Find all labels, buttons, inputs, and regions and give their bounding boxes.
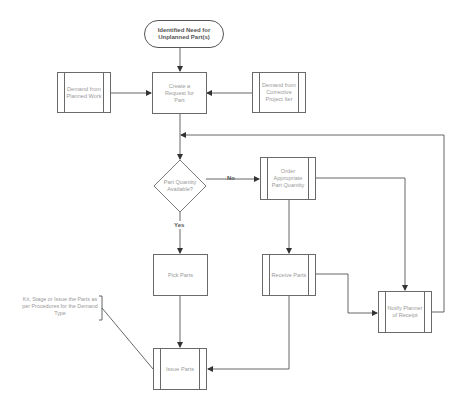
node-label: Order Appropriate Part Quantity bbox=[261, 168, 315, 189]
annotation-text: Kit, Stage or Issue the Parts as per Pro… bbox=[22, 296, 98, 317]
decision-label: Part Quantity Available? bbox=[158, 179, 202, 193]
node-label: Issue Parts bbox=[158, 366, 202, 373]
node-demand-planned-work[interactable]: Demand from Planned Work bbox=[57, 72, 111, 113]
start-terminator[interactable]: Identified Need for Unplanned Part(s) bbox=[144, 20, 224, 48]
edge-order-to-notify bbox=[316, 178, 405, 290]
node-create-request[interactable]: Create a Request for Part bbox=[152, 72, 207, 114]
node-label: Receive Parts bbox=[264, 272, 315, 279]
edge-label-no: No bbox=[227, 175, 235, 181]
node-receive-parts[interactable]: Receive Parts bbox=[262, 254, 316, 296]
annotation-bracket bbox=[99, 296, 102, 320]
edge-receive-to-notify bbox=[316, 274, 377, 313]
node-label: Pick Parts bbox=[160, 272, 201, 279]
node-label: Demand from Planned Work bbox=[58, 86, 110, 100]
node-label: Demand from Corrective Project Iter bbox=[253, 82, 305, 103]
node-order-parts[interactable]: Order Appropriate Part Quantity bbox=[260, 157, 316, 200]
node-label: Create a Request for Part bbox=[153, 83, 206, 104]
node-demand-corrective[interactable]: Demand from Corrective Project Iter bbox=[252, 72, 306, 113]
node-notify-planner[interactable]: Notify Planner of Receipt bbox=[378, 291, 432, 333]
edge-label-yes: Yes bbox=[174, 222, 184, 228]
edge-receive-to-issue bbox=[208, 296, 289, 369]
node-issue-parts[interactable]: Issue Parts bbox=[153, 348, 207, 390]
node-label: Notify Planner of Receipt bbox=[379, 305, 431, 319]
start-label: Identified Need for Unplanned Part(s) bbox=[145, 27, 223, 42]
annotation-connector bbox=[102, 308, 153, 369]
node-pick-parts[interactable]: Pick Parts bbox=[153, 254, 208, 296]
flowchart-connectors bbox=[0, 0, 468, 411]
